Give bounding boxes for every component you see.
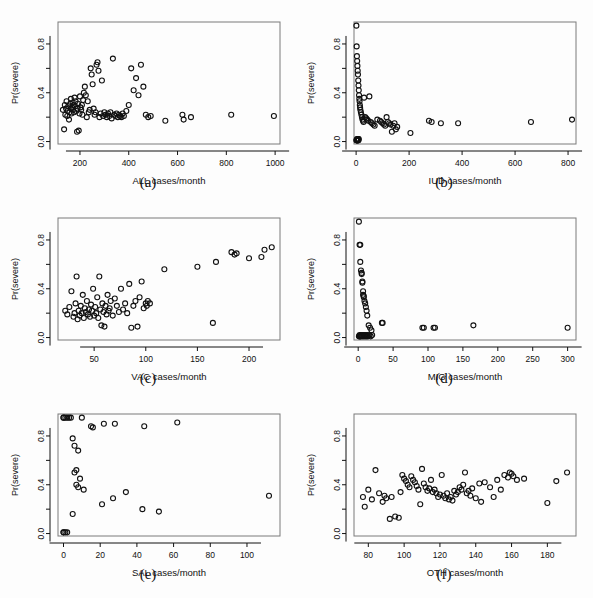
panel-caption-e: (e) [0, 566, 296, 583]
scatter-panel-f: 801001201401601800.00.40.8Pr(severe)OTH … [296, 392, 592, 588]
x-tick-label: 100 [240, 550, 254, 560]
y-tick-label: 0.4 [36, 283, 46, 295]
x-tick-label: 40 [132, 550, 142, 560]
data-point [389, 494, 394, 499]
data-point [110, 313, 115, 318]
data-point [482, 480, 487, 485]
data-point [133, 298, 138, 303]
x-tick-label: 80 [206, 550, 216, 560]
x-tick-label: 0 [354, 158, 359, 168]
data-point [356, 219, 361, 224]
data-point [112, 421, 117, 426]
x-tick-label: 400 [122, 158, 136, 168]
data-point [111, 496, 116, 501]
data-point [73, 301, 78, 306]
data-point [355, 63, 360, 68]
y-tick-label: 0.4 [332, 87, 342, 99]
x-tick-label: 160 [504, 550, 518, 560]
data-point [131, 303, 136, 308]
data-point [88, 66, 93, 71]
data-point [428, 477, 433, 482]
data-point [356, 88, 361, 93]
data-point [96, 316, 101, 321]
data-point [78, 476, 83, 481]
data-point [85, 99, 90, 104]
y-tick-label: 0.8 [332, 38, 342, 50]
data-point [110, 56, 115, 61]
data-point [81, 316, 86, 321]
data-point [438, 121, 443, 126]
data-point [365, 313, 370, 318]
scatter-panel-b: 02004006008000.00.40.8Pr(severe)IUD case… [296, 0, 592, 196]
y-axis-label: Pr(severe) [10, 454, 20, 496]
data-point [477, 481, 482, 486]
y-tick-label: 0.8 [36, 234, 46, 246]
y-tick-label: 0.0 [36, 527, 46, 539]
data-point [121, 307, 126, 312]
data-point [81, 487, 86, 492]
data-point [97, 274, 102, 279]
x-tick-label: 800 [561, 158, 575, 168]
data-point [354, 44, 359, 49]
data-point [80, 292, 85, 297]
data-point [439, 473, 444, 478]
data-point [125, 311, 130, 316]
data-point [175, 420, 180, 425]
y-axis-label: Pr(severe) [10, 258, 20, 300]
x-tick-label: 200 [73, 158, 87, 168]
x-tick-label: 50 [388, 354, 398, 364]
plot-frame [58, 22, 280, 144]
panel-caption-c: (c) [0, 370, 296, 387]
panel-caption-a: (a) [0, 174, 296, 191]
data-point [491, 494, 496, 499]
data-point [99, 323, 104, 328]
x-tick-label: 400 [455, 158, 469, 168]
y-tick-label: 0.4 [36, 479, 46, 491]
data-point [356, 78, 361, 83]
data-point [89, 72, 94, 77]
x-tick-label: 140 [469, 550, 483, 560]
y-tick-label: 0.8 [332, 430, 342, 442]
scatter-panel-d: 0501001502002503000.00.40.8Pr(severe)MIG… [296, 196, 592, 392]
figure-panel-grid: 20040060080010000.00.40.8Pr(severe)ALL c… [0, 0, 593, 598]
data-point [188, 115, 193, 120]
data-point [262, 247, 267, 252]
data-point [123, 490, 128, 495]
data-point [62, 127, 67, 132]
x-tick-label: 200 [402, 158, 416, 168]
data-point [408, 131, 413, 136]
y-tick-label: 0.4 [332, 283, 342, 295]
data-point [479, 499, 484, 504]
data-point [139, 279, 144, 284]
x-tick-label: 600 [508, 158, 522, 168]
x-tick-label: 20 [95, 550, 105, 560]
scatter-panel-c: 501001502000.00.40.8Pr(severe)VAC cases/… [0, 196, 296, 392]
data-point [142, 424, 147, 429]
data-point [60, 107, 65, 112]
plot-area-c: 501001502000.00.40.8Pr(severe)VAC cases/… [0, 196, 296, 392]
data-point [137, 295, 142, 300]
x-tick-label: 180 [540, 550, 554, 560]
y-tick-label: 0.4 [332, 479, 342, 491]
y-tick-label: 0.8 [332, 234, 342, 246]
data-point [554, 479, 559, 484]
data-point [387, 516, 392, 521]
data-point [247, 256, 252, 261]
data-point [101, 421, 106, 426]
x-tick-label: 100 [421, 354, 435, 364]
data-points [61, 415, 271, 535]
y-tick-label: 0.0 [332, 331, 342, 343]
data-point [266, 493, 271, 498]
data-point [76, 448, 81, 453]
plot-area-b: 02004006008000.00.40.8Pr(severe)IUD case… [296, 0, 592, 196]
plot-area-a: 20040060080010000.00.40.8Pr(severe)ALL c… [0, 0, 296, 196]
y-tick-label: 0.0 [332, 135, 342, 147]
data-point [91, 286, 96, 291]
data-point [358, 259, 363, 264]
data-point [134, 76, 139, 81]
data-point [74, 274, 79, 279]
data-point [72, 443, 77, 448]
data-point [420, 466, 425, 471]
data-point [355, 59, 360, 64]
x-tick-label: 250 [526, 354, 540, 364]
